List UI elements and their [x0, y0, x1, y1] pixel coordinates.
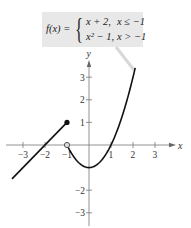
- x-tick-label: 2: [131, 150, 136, 160]
- closed-endpoint: [64, 120, 69, 125]
- y-tick-label: −3: [75, 208, 85, 218]
- callout-pointer: [116, 47, 134, 70]
- y-tick-label: −2: [75, 186, 85, 196]
- x-tick-label: 3: [153, 150, 158, 160]
- parabola-piece: [67, 68, 135, 168]
- y-axis-label: y: [86, 48, 92, 59]
- plot-area: xy−3−2−1123−3−2123: [0, 0, 191, 228]
- series: [12, 68, 135, 179]
- x-axis-label: x: [177, 140, 183, 151]
- axes: xy−3−2−1123−3−2123: [6, 48, 183, 226]
- y-tick-label: 2: [80, 95, 85, 105]
- x-tick-label: 1: [109, 150, 114, 160]
- x-tick-label: −2: [40, 150, 50, 160]
- y-tick-label: 3: [80, 73, 85, 83]
- y-tick-label: 1: [80, 118, 85, 128]
- x-axis-arrow-icon: [169, 143, 176, 147]
- y-axis-arrow-icon: [87, 60, 91, 67]
- x-tick-label: −3: [18, 150, 28, 160]
- open-endpoint: [64, 142, 69, 147]
